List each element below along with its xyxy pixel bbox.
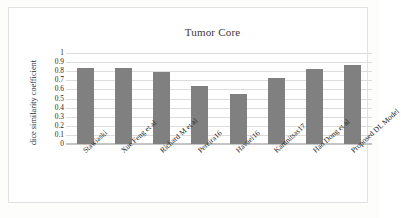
bar[interactable] <box>344 65 361 144</box>
y-axis-title: dice similarity coefficient <box>29 48 38 158</box>
chart-title-text: Tumor Core <box>185 26 241 38</box>
y-axis-tick-label: 0.9 <box>45 58 64 65</box>
y-axis-tick-label: 0.6 <box>45 86 64 93</box>
bar[interactable] <box>268 78 285 144</box>
y-axis-tick-label: 0 <box>45 140 64 147</box>
y-axis-tick-label: 0.1 <box>45 131 64 138</box>
y-axis-tick-label: 0.8 <box>45 67 64 74</box>
y-axis-tick-label: 0.4 <box>45 104 64 111</box>
bar[interactable] <box>115 68 132 144</box>
chart-frame: Tumor Core dice similarity coefficient 1… <box>8 7 368 203</box>
y-axis-tick-labels: 10.90.80.70.60.50.40.30.20.10 <box>45 53 64 144</box>
chart-title: Tumor Core <box>9 26 388 38</box>
bar[interactable] <box>153 72 170 144</box>
y-axis-tick-label: 0.5 <box>45 95 64 102</box>
y-axis-tick-label: 0.7 <box>45 77 64 84</box>
y-axis-tick-label: 1 <box>45 49 64 56</box>
y-axis-tick-label: 0.3 <box>45 113 64 120</box>
bar[interactable] <box>230 94 247 144</box>
bar[interactable] <box>191 86 208 144</box>
bar[interactable] <box>77 68 94 144</box>
y-axis-tick-label: 0.2 <box>45 122 64 129</box>
bar[interactable] <box>306 69 323 144</box>
x-axis-category-labels: StawiaskiXue Feng et alRichard M et alPe… <box>66 144 372 214</box>
